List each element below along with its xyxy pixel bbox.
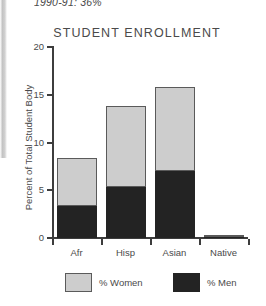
y-axis-tick xyxy=(47,94,54,96)
y-axis-tick-label: 5 xyxy=(22,185,44,195)
y-axis-tick-label: 20 xyxy=(22,42,44,52)
x-axis-tick-label: Native xyxy=(199,247,248,258)
y-axis-tick-label: 0 xyxy=(22,233,44,243)
bar-segment-asian-men xyxy=(155,171,195,238)
x-axis-tick xyxy=(150,239,152,245)
chart-plot-area: Percent of Total Student Body 20151050 A… xyxy=(0,0,266,306)
legend-label-men: % Men xyxy=(207,277,237,288)
y-axis-tick xyxy=(47,142,54,144)
bar-segment-native-women xyxy=(204,235,244,237)
x-axis-tick-label: Afr xyxy=(52,247,101,258)
bar-segment-afr-women xyxy=(57,158,97,207)
x-axis-tick xyxy=(101,239,103,245)
legend-swatch-women xyxy=(65,273,92,292)
x-axis-tick-label: Hisp xyxy=(101,247,150,258)
legend-item-women: % Women xyxy=(65,271,143,293)
x-axis-tick xyxy=(248,239,250,245)
x-axis-tick xyxy=(52,239,54,245)
bar-segment-hisp-women xyxy=(106,106,146,187)
y-axis-tick-label: 10 xyxy=(22,138,44,148)
x-axis-tick xyxy=(199,239,201,245)
legend-label-women: % Women xyxy=(99,277,143,288)
x-axis-tick-label: Asian xyxy=(150,247,199,258)
y-axis-tick xyxy=(47,189,54,191)
y-axis-title: Percent of Total Student Body xyxy=(23,58,34,238)
chart-legend: % Women % Men xyxy=(0,271,266,297)
bar-segment-hisp-men xyxy=(106,187,146,238)
legend-item-men: % Men xyxy=(173,271,237,293)
bar-segment-afr-men xyxy=(57,206,97,238)
y-axis-tick xyxy=(47,46,54,48)
y-axis-tick-label: 15 xyxy=(22,90,44,100)
bar-segment-asian-women xyxy=(155,87,195,171)
legend-swatch-men xyxy=(173,273,200,292)
